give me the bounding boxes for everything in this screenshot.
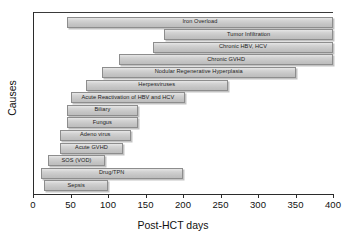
x-axis-tick bbox=[33, 194, 34, 198]
x-axis-tick-label: 0 bbox=[30, 199, 35, 210]
x-axis-tick-label: 300 bbox=[250, 199, 266, 210]
gantt-bar-label: Adeno virus bbox=[61, 133, 130, 139]
x-axis-tick bbox=[221, 194, 222, 198]
x-axis-tick bbox=[183, 194, 184, 198]
gantt-chart: Iron OverloadTumor InfiltrationChronic H… bbox=[0, 0, 346, 243]
gantt-bar: Iron Overload bbox=[67, 17, 333, 28]
gantt-bar: Fungus bbox=[67, 117, 138, 128]
gantt-bar: Drug/TPN bbox=[41, 168, 184, 179]
gantt-bar: Chronic GVHD bbox=[119, 54, 333, 65]
gantt-bar-label: Drug/TPN bbox=[42, 170, 183, 176]
x-axis-tick bbox=[71, 194, 72, 198]
gantt-bar: Nodular Regenerative Hyperplasia bbox=[102, 67, 296, 78]
gantt-bar: Acute Reactivation of HBV and HCV bbox=[71, 92, 186, 103]
gantt-bar: Adeno virus bbox=[60, 130, 131, 141]
x-axis-tick-label: 400 bbox=[325, 199, 341, 210]
x-axis-tick bbox=[258, 194, 259, 198]
gantt-bar: Tumor Infiltration bbox=[164, 29, 333, 40]
gantt-bar-label: Herpesviruses bbox=[87, 82, 228, 88]
x-axis-tick-label: 350 bbox=[288, 199, 304, 210]
gantt-bar-label: SOS (VOD) bbox=[49, 158, 104, 164]
gantt-bar: Herpesviruses bbox=[86, 80, 229, 91]
gantt-bar-label: Tumor Infiltration bbox=[165, 32, 332, 38]
gantt-bar-label: Fungus bbox=[68, 120, 137, 126]
x-axis-tick-label: 50 bbox=[65, 199, 76, 210]
gantt-bar-label: Chronic GVHD bbox=[120, 57, 332, 63]
gantt-bar-label: Acute GVHD bbox=[61, 145, 122, 151]
x-axis-tick-label: 250 bbox=[213, 199, 229, 210]
x-axis-tick bbox=[108, 194, 109, 198]
gantt-bar: Biliary bbox=[67, 105, 138, 116]
gantt-bar-label: Iron Overload bbox=[68, 19, 332, 25]
x-axis-tick-label: 200 bbox=[175, 199, 191, 210]
gantt-bar-label: Sepsis bbox=[45, 183, 107, 189]
gantt-bar: Sepsis bbox=[44, 180, 108, 191]
gantt-bar: SOS (VOD) bbox=[48, 155, 105, 166]
gantt-bar-label: Nodular Regenerative Hyperplasia bbox=[103, 70, 295, 76]
x-axis-tick bbox=[296, 194, 297, 198]
x-axis-tick-label: 150 bbox=[138, 199, 154, 210]
x-axis-tick bbox=[333, 194, 334, 198]
gantt-bar: Chronic HBV, HCV bbox=[153, 42, 333, 53]
gantt-bar-label: Acute Reactivation of HBV and HCV bbox=[72, 95, 185, 101]
gantt-bar-label: Biliary bbox=[68, 107, 137, 113]
y-axis-title: Causes bbox=[6, 63, 18, 133]
x-axis-tick-label: 100 bbox=[100, 199, 116, 210]
x-axis-title: Post-HCT days bbox=[0, 219, 346, 231]
gantt-bar-label: Chronic HBV, HCV bbox=[154, 44, 332, 50]
gantt-bar: Acute GVHD bbox=[60, 143, 123, 154]
x-axis-tick bbox=[146, 194, 147, 198]
